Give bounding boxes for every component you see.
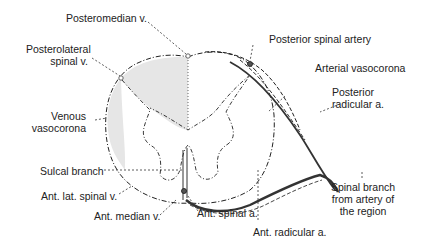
label-line: Posterior [332, 86, 384, 98]
label-ant-lat-spinal-vein: Ant. lat. spinal v. [41, 190, 117, 202]
posterolateral-vein [119, 76, 123, 80]
label-posterior-spinal-artery: Posterior spinal artery [269, 33, 371, 45]
label-posterior-radicular-artery: Posterior radicular a. [332, 86, 384, 110]
label-spinal-branch: Spinal branch from artery of the region [320, 181, 406, 217]
label-ant-radicular-artery: Ant. radicular a. [253, 226, 327, 238]
label-line: the region [320, 205, 406, 217]
label-line: Spinal branch [320, 181, 406, 193]
label-ant-spinal-artery: Ant. spinal a. [197, 207, 258, 219]
shaded-white-matter [108, 57, 188, 170]
label-line: Posterolateral [26, 43, 88, 55]
label-ant-median-vein: Ant. median v. [94, 210, 160, 222]
anterior-radicular-artery [186, 175, 338, 211]
label-line: spinal v. [26, 55, 88, 67]
label-arterial-vasocorona: Arterial vasocorona [315, 62, 405, 74]
label-venous-vasocorona: Venous vasocorona [30, 110, 86, 134]
label-line: from artery of [320, 193, 406, 205]
anterior-spinal-artery [182, 189, 187, 194]
label-line: Venous [30, 110, 86, 122]
posteromedian-vein [186, 54, 190, 58]
label-posteromedian-vein: Posteromedian v. [66, 12, 147, 24]
label-sulcal-branch: Sulcal branch [40, 165, 104, 177]
label-posterolateral-spinal-vein: Posterolateral spinal v. [26, 43, 88, 67]
label-line: vasocorona [30, 122, 86, 134]
label-line: radicular a. [332, 98, 384, 110]
posterior-spinal-artery [248, 62, 253, 67]
